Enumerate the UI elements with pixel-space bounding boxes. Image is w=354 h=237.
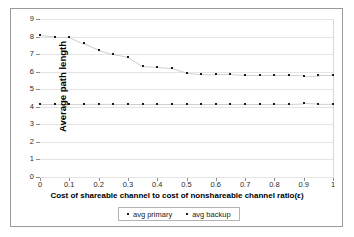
data-point: [156, 103, 158, 105]
data-point: [83, 42, 85, 44]
data-point: [288, 103, 290, 105]
series-connector: [84, 43, 99, 50]
y-axis-tick-mark: [36, 54, 40, 55]
x-axis-tick-label: 0.8: [259, 181, 289, 189]
gridline: [40, 89, 333, 90]
data-point: [244, 74, 246, 76]
data-point: [288, 74, 290, 76]
series-connector: [201, 104, 216, 105]
x-axis-tick-mark: [245, 178, 246, 181]
data-point: [83, 103, 85, 105]
x-axis-tick-mark: [274, 178, 275, 181]
gridline: [40, 124, 333, 125]
data-point: [112, 53, 114, 55]
series-connector: [304, 103, 319, 105]
data-point: [244, 103, 246, 105]
series-connector: [201, 74, 216, 76]
x-axis-tick-mark: [128, 178, 129, 181]
x-axis-tick-mark: [187, 178, 188, 181]
series-connector: [289, 103, 304, 105]
x-axis-tick-mark: [69, 178, 70, 181]
series-connector: [157, 67, 172, 69]
x-axis-tick-mark: [99, 178, 100, 181]
data-point: [156, 66, 158, 68]
data-point: [186, 103, 188, 105]
series-connector: [274, 104, 289, 105]
y-axis-tick-label: 6: [4, 68, 34, 76]
x-axis-tick-label: 0.4: [142, 181, 172, 189]
data-point: [200, 73, 202, 75]
data-point: [68, 36, 70, 38]
series-connector: [127, 57, 142, 67]
legend-label: avg primary: [133, 210, 172, 219]
series-connector: [69, 37, 84, 45]
data-point: [229, 73, 231, 75]
chart-legend: avg primaryavg backup: [118, 207, 240, 221]
data-point: [127, 103, 129, 105]
series-connector: [245, 104, 260, 105]
data-point: [317, 74, 319, 76]
y-axis-tick-mark: [36, 142, 40, 143]
data-point: [98, 49, 100, 51]
chart-figure: 0123456789 Average path length 00.10.20.…: [0, 0, 354, 237]
data-point: [112, 103, 114, 105]
series-connector: [318, 75, 333, 76]
series-connector: [186, 73, 201, 75]
y-axis-title: Average path length: [57, 17, 68, 157]
series-connector: [216, 74, 231, 75]
data-point: [68, 103, 70, 105]
series-connector: [128, 104, 143, 105]
series-connector: [230, 74, 245, 76]
legend-entry[interactable]: avg backup: [186, 210, 230, 219]
y-axis-tick-mark: [36, 159, 40, 160]
series-connector: [99, 104, 114, 105]
data-point: [332, 103, 334, 105]
series-connector: [187, 104, 202, 105]
x-axis-tick-label: 0.7: [230, 181, 260, 189]
x-axis-title: Cost of shareable channel to cost of non…: [14, 191, 340, 200]
series-connector: [84, 104, 99, 105]
data-point: [142, 103, 144, 105]
data-point: [39, 103, 41, 105]
data-point: [229, 103, 231, 105]
y-axis-tick-label: 8: [4, 33, 34, 41]
data-point: [259, 103, 261, 105]
data-point: [273, 103, 275, 105]
gridline: [40, 37, 333, 38]
data-point: [171, 103, 173, 105]
data-point: [303, 75, 305, 77]
x-axis-tick-label: 0.1: [54, 181, 84, 189]
legend-entry[interactable]: avg primary: [127, 210, 172, 219]
series-connector: [216, 104, 231, 105]
data-point: [273, 74, 275, 76]
x-axis-tick-label: 1: [318, 181, 348, 189]
series-connector: [143, 104, 158, 105]
y-axis-tick-label: 2: [4, 138, 34, 146]
legend-marker-icon: [127, 213, 129, 215]
y-axis-tick-mark: [36, 72, 40, 73]
gridline: [40, 142, 333, 143]
x-axis-tick-label: 0.9: [289, 181, 319, 189]
y-axis-tick-label: 9: [4, 15, 34, 23]
y-axis-tick-label: 4: [4, 103, 34, 111]
x-axis-tick-label: 0.6: [201, 181, 231, 189]
series-connector: [142, 66, 157, 68]
x-axis-tick-mark: [333, 178, 334, 181]
data-point: [54, 103, 56, 105]
gridline: [40, 19, 333, 20]
data-point: [332, 74, 334, 76]
data-point: [215, 73, 217, 75]
x-axis-tick-label: 0: [25, 181, 55, 189]
y-axis-tick-label: 0: [4, 173, 34, 181]
legend-label: avg backup: [192, 210, 230, 219]
y-axis-tick-mark: [36, 124, 40, 125]
plot-area: Average path length: [40, 19, 333, 177]
gridline: [40, 107, 333, 108]
y-axis-tick-mark: [36, 19, 40, 20]
data-point: [171, 67, 173, 69]
data-point: [259, 74, 261, 76]
series-connector: [274, 75, 289, 76]
y-axis-tick-label: 3: [4, 120, 34, 128]
gridline: [40, 159, 333, 160]
x-axis-tick-mark: [304, 178, 305, 181]
